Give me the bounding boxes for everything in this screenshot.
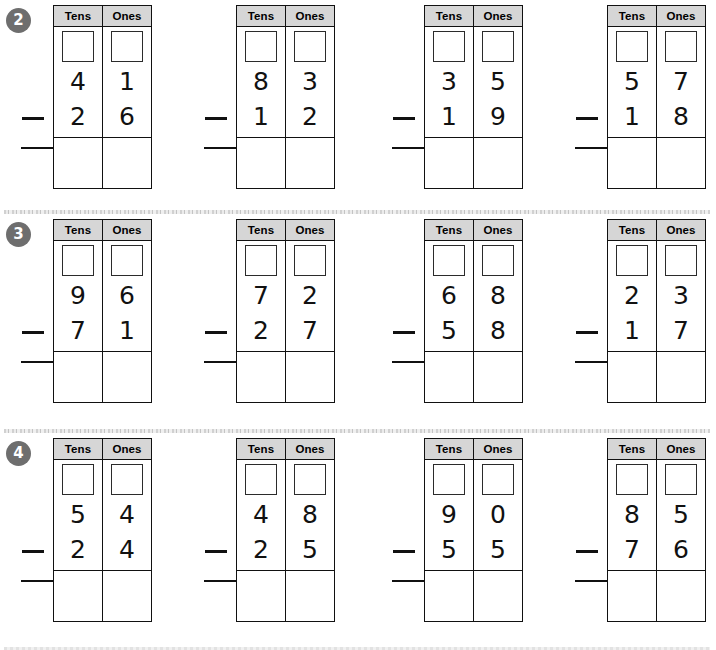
regroup-box-tens[interactable] bbox=[433, 245, 465, 276]
minus-sign-icon bbox=[576, 550, 598, 553]
answer-cell-ones[interactable] bbox=[474, 352, 523, 403]
subtrahend-digit-tens: 2 bbox=[237, 318, 285, 343]
regroup-box-ones[interactable] bbox=[665, 245, 697, 276]
table-work-row: 4 2 8 5 bbox=[237, 460, 335, 571]
problem-group: Tens Ones 9 7 bbox=[0, 214, 716, 429]
regroup-box-tens[interactable] bbox=[62, 31, 94, 62]
regroup-box-tens[interactable] bbox=[433, 464, 465, 495]
minus-sign-icon bbox=[205, 331, 227, 334]
answer-cell-tens[interactable] bbox=[54, 571, 103, 622]
problem-group: Tens Ones 4 2 bbox=[0, 0, 716, 210]
ones-work-cell: 5 9 bbox=[474, 27, 523, 138]
minus-sign-icon bbox=[22, 331, 44, 334]
minus-sign-icon bbox=[22, 117, 44, 120]
regroup-box-tens[interactable] bbox=[245, 245, 277, 276]
column-header-ones: Ones bbox=[286, 439, 335, 460]
column-header-ones: Ones bbox=[103, 439, 152, 460]
regroup-box-tens[interactable] bbox=[245, 31, 277, 62]
answer-cell-ones[interactable] bbox=[103, 571, 152, 622]
answer-cell-ones[interactable] bbox=[286, 352, 335, 403]
regroup-box-ones[interactable] bbox=[111, 245, 143, 276]
answer-cell-tens[interactable] bbox=[237, 571, 286, 622]
subtrahend-digit-ones: 9 bbox=[474, 104, 522, 129]
minus-sign-icon bbox=[576, 117, 598, 120]
answer-cell-ones[interactable] bbox=[657, 138, 706, 189]
answer-cell-tens[interactable] bbox=[54, 138, 103, 189]
answer-cell-ones[interactable] bbox=[657, 571, 706, 622]
answer-cell-ones[interactable] bbox=[103, 352, 152, 403]
regroup-box-tens[interactable] bbox=[245, 464, 277, 495]
regroup-box-tens[interactable] bbox=[433, 31, 465, 62]
answer-cell-tens[interactable] bbox=[425, 352, 474, 403]
tens-work-cell: 8 1 bbox=[237, 27, 286, 138]
minuend-digit-tens: 7 bbox=[237, 283, 285, 308]
ones-work-cell: 4 4 bbox=[103, 460, 152, 571]
answer-cell-tens[interactable] bbox=[425, 138, 474, 189]
regroup-box-tens[interactable] bbox=[62, 245, 94, 276]
minuend-digit-ones: 5 bbox=[474, 69, 522, 94]
regroup-box-ones[interactable] bbox=[482, 245, 514, 276]
answer-cell-tens[interactable] bbox=[608, 571, 657, 622]
table-answer-row bbox=[425, 138, 523, 189]
table-header-row: Tens Ones bbox=[237, 6, 335, 27]
subtrahend-digit-tens: 5 bbox=[425, 537, 473, 562]
minus-sign-icon bbox=[205, 117, 227, 120]
minuend-digit-tens: 8 bbox=[608, 502, 656, 527]
tens-work-cell: 6 5 bbox=[425, 241, 474, 352]
column-header-ones: Ones bbox=[657, 220, 706, 241]
regroup-box-tens[interactable] bbox=[616, 245, 648, 276]
subtraction-problem: Tens Ones 2 1 bbox=[607, 219, 703, 411]
answer-cell-tens[interactable] bbox=[608, 352, 657, 403]
answer-cell-ones[interactable] bbox=[657, 352, 706, 403]
minuend-digit-tens: 5 bbox=[54, 502, 102, 527]
regroup-box-ones[interactable] bbox=[665, 464, 697, 495]
answer-cell-tens[interactable] bbox=[237, 138, 286, 189]
subtrahend-digit-tens: 2 bbox=[237, 537, 285, 562]
answer-cell-ones[interactable] bbox=[286, 571, 335, 622]
regroup-box-ones[interactable] bbox=[294, 464, 326, 495]
regroup-box-tens[interactable] bbox=[616, 31, 648, 62]
answer-cell-tens[interactable] bbox=[237, 352, 286, 403]
regroup-box-tens[interactable] bbox=[616, 464, 648, 495]
answer-cell-ones[interactable] bbox=[474, 138, 523, 189]
minus-sign-icon bbox=[22, 550, 44, 553]
minuend-digit-tens: 9 bbox=[425, 502, 473, 527]
table-header-row: Tens Ones bbox=[54, 439, 152, 460]
table-work-row: 9 7 6 1 bbox=[54, 241, 152, 352]
table-work-row: 2 1 3 7 bbox=[608, 241, 706, 352]
place-value-table: Tens Ones 9 5 bbox=[424, 438, 523, 622]
regroup-box-ones[interactable] bbox=[294, 31, 326, 62]
column-header-ones: Ones bbox=[103, 220, 152, 241]
subtraction-problem: Tens Ones 5 1 bbox=[607, 5, 703, 197]
table-answer-row bbox=[54, 138, 152, 189]
problem-row: 2 Tens Ones 4 2 bbox=[0, 0, 716, 210]
regroup-box-ones[interactable] bbox=[482, 31, 514, 62]
table-header-row: Tens Ones bbox=[425, 6, 523, 27]
table-work-row: 5 1 7 8 bbox=[608, 27, 706, 138]
regroup-box-ones[interactable] bbox=[294, 245, 326, 276]
table-answer-row bbox=[608, 352, 706, 403]
answer-cell-tens[interactable] bbox=[54, 352, 103, 403]
minus-sign-icon bbox=[205, 550, 227, 553]
answer-cell-ones[interactable] bbox=[103, 138, 152, 189]
subtrahend-digit-tens: 1 bbox=[237, 104, 285, 129]
subtrahend-digit-ones: 4 bbox=[103, 537, 151, 562]
table-header-row: Tens Ones bbox=[425, 220, 523, 241]
table-work-row: 9 5 0 5 bbox=[425, 460, 523, 571]
regroup-box-ones[interactable] bbox=[111, 464, 143, 495]
column-header-ones: Ones bbox=[286, 6, 335, 27]
regroup-box-ones[interactable] bbox=[665, 31, 697, 62]
ones-work-cell: 8 5 bbox=[286, 460, 335, 571]
answer-cell-ones[interactable] bbox=[286, 138, 335, 189]
ones-work-cell: 3 7 bbox=[657, 241, 706, 352]
minuend-digit-tens: 9 bbox=[54, 283, 102, 308]
regroup-box-tens[interactable] bbox=[62, 464, 94, 495]
answer-cell-tens[interactable] bbox=[608, 138, 657, 189]
regroup-box-ones[interactable] bbox=[111, 31, 143, 62]
answer-cell-ones[interactable] bbox=[474, 571, 523, 622]
tens-work-cell: 4 2 bbox=[54, 27, 103, 138]
tens-work-cell: 2 1 bbox=[608, 241, 657, 352]
regroup-box-ones[interactable] bbox=[482, 464, 514, 495]
answer-cell-tens[interactable] bbox=[425, 571, 474, 622]
